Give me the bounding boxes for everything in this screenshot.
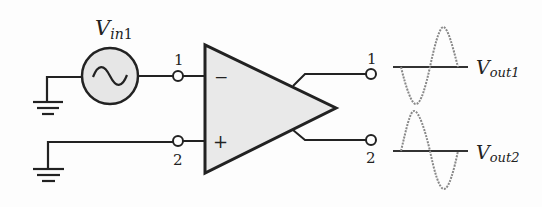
output-terminal-1 bbox=[366, 69, 376, 79]
input-terminal-2 bbox=[173, 136, 183, 146]
differential-amplifier-icon bbox=[205, 45, 336, 173]
output-terminal-2-label: 2 bbox=[366, 149, 376, 167]
wire-output1 bbox=[293, 74, 366, 86]
circuit-diagram: Vin1 1 2 − + 1 2 bbox=[0, 0, 542, 207]
vout1-label: Vout1 bbox=[476, 56, 519, 80]
ground-icon-2 bbox=[33, 142, 173, 181]
output-terminal-2 bbox=[366, 135, 376, 145]
diagram-canvas: Vin1 1 2 − + 1 2 bbox=[0, 0, 542, 207]
inverting-input-sign: − bbox=[214, 67, 228, 87]
noninverting-input-sign: + bbox=[213, 131, 228, 152]
output-terminal-1-label: 1 bbox=[367, 50, 377, 68]
wire-output2 bbox=[293, 130, 366, 140]
vout2-waveform-icon bbox=[393, 111, 468, 189]
input-terminal-1-label: 1 bbox=[174, 51, 184, 69]
vout2-label: Vout2 bbox=[476, 141, 519, 165]
ac-sine-source-icon bbox=[82, 48, 138, 104]
vout1-waveform-icon bbox=[393, 27, 468, 104]
input-terminal-2-label: 2 bbox=[173, 151, 183, 169]
ground-icon-1 bbox=[33, 77, 81, 114]
vin1-label: Vin1 bbox=[95, 16, 133, 42]
input-terminal-1 bbox=[173, 71, 183, 81]
